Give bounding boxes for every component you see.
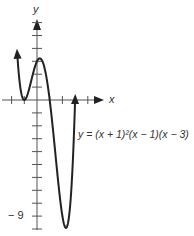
x-axis-arrow-icon — [94, 96, 104, 104]
axis-ticks — [12, 23, 88, 229]
curve-right-arrow-icon — [71, 94, 79, 104]
y-axis — [33, 19, 41, 230]
polynomial-curve — [17, 55, 75, 228]
equation-label: y = (x + 1)²(x − 1)(x − 3) — [78, 128, 189, 140]
y-axis-arrow-icon — [33, 19, 41, 30]
x-axis-label: x — [109, 93, 115, 105]
graph-canvas — [0, 0, 194, 236]
x-axis — [2, 96, 104, 104]
curve-left-arrow-icon — [14, 49, 22, 59]
y-tick-label-minus-9: − 9 — [8, 209, 24, 221]
y-axis-label: y — [33, 3, 39, 15]
